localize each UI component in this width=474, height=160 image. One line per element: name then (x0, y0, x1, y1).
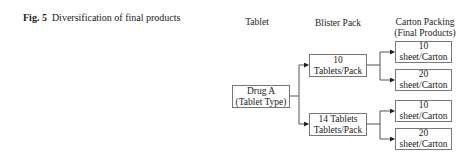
node-carton-2: 20 sheet/Carton (395, 69, 452, 91)
node-drug-a-line2: (Tablet Type) (233, 97, 289, 108)
node-blister-10-line2: Tablets/Pack (310, 66, 366, 77)
node-carton-4: 20 sheet/Carton (395, 128, 452, 150)
node-carton-1: 10 sheet/Carton (395, 41, 452, 63)
node-blister-14-line2: Tablets/Pack (310, 125, 366, 136)
node-carton-4-line2: sheet/Carton (396, 139, 451, 150)
node-carton-3-line2: sheet/Carton (396, 111, 451, 122)
node-carton-3-line1: 10 (396, 100, 451, 111)
node-carton-2-line1: 20 (396, 69, 451, 80)
node-blister-10-line1: 10 (310, 55, 366, 66)
node-carton-2-line2: sheet/Carton (396, 80, 451, 91)
node-drug-a: Drug A (Tablet Type) (232, 85, 290, 108)
node-blister-10: 10 Tablets/Pack (309, 54, 367, 77)
node-drug-a-line1: Drug A (233, 86, 289, 97)
node-blister-14-line1: 14 Tablets (310, 114, 366, 125)
node-carton-1-line1: 10 (396, 41, 451, 52)
node-carton-4-line1: 20 (396, 128, 451, 139)
node-carton-1-line2: sheet/Carton (396, 52, 451, 63)
node-carton-3: 10 sheet/Carton (395, 100, 452, 122)
node-blister-14: 14 Tablets Tablets/Pack (309, 113, 367, 136)
